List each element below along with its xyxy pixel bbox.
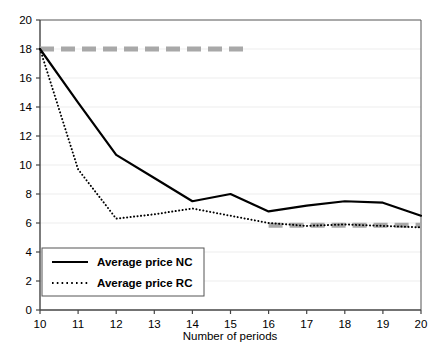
line-chart: 02468101214161820 1011121314151617181920… bbox=[0, 0, 440, 352]
y-tick-label-2: 2 bbox=[26, 275, 32, 287]
y-tick-label-16: 16 bbox=[19, 72, 32, 84]
legend-label-average-price-nc: Average price NC bbox=[97, 256, 192, 268]
y-tick-label-0: 0 bbox=[26, 304, 32, 316]
legend-label-average-price-rc: Average price RC bbox=[97, 277, 192, 289]
x-axis-ticks: 1011121314151617181920 bbox=[34, 310, 428, 330]
y-tick-label-10: 10 bbox=[19, 159, 32, 171]
x-tick-label-19: 19 bbox=[377, 318, 390, 330]
x-tick-label-15: 15 bbox=[224, 318, 237, 330]
legend: Average price NC Average price RC bbox=[42, 248, 204, 296]
x-tick-label-17: 17 bbox=[300, 318, 313, 330]
x-tick-label-12: 12 bbox=[110, 318, 123, 330]
y-tick-label-18: 18 bbox=[19, 43, 32, 55]
y-tick-label-12: 12 bbox=[19, 130, 32, 142]
y-tick-label-4: 4 bbox=[26, 246, 33, 258]
chart-container: 02468101214161820 1011121314151617181920… bbox=[0, 0, 440, 352]
y-tick-label-14: 14 bbox=[19, 101, 32, 113]
x-tick-label-16: 16 bbox=[262, 318, 275, 330]
x-axis-title: Number of periods bbox=[183, 330, 278, 342]
x-tick-label-11: 11 bbox=[72, 318, 84, 330]
y-tick-label-6: 6 bbox=[26, 217, 32, 229]
x-tick-label-20: 20 bbox=[415, 318, 428, 330]
x-tick-label-18: 18 bbox=[338, 318, 351, 330]
y-tick-label-20: 20 bbox=[19, 14, 32, 26]
x-tick-label-10: 10 bbox=[34, 318, 47, 330]
y-axis-ticks: 02468101214161820 bbox=[19, 14, 40, 316]
x-tick-label-13: 13 bbox=[148, 318, 161, 330]
x-tick-label-14: 14 bbox=[186, 318, 199, 330]
y-tick-label-8: 8 bbox=[26, 188, 32, 200]
